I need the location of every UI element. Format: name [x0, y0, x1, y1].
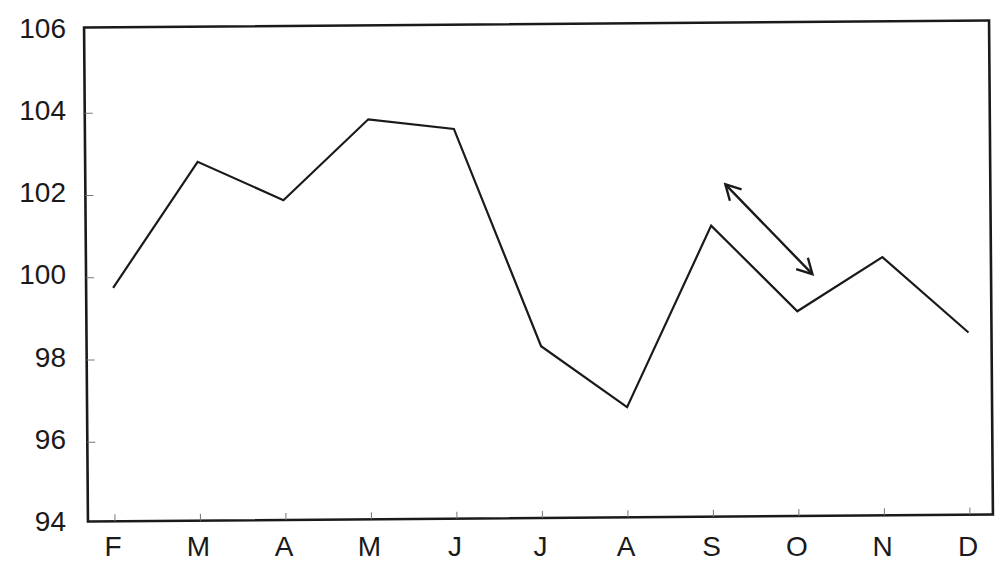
y-tick-label: 104 — [19, 95, 66, 126]
x-tick-label: A — [275, 531, 294, 562]
line-chart: 949698100102104106 FMAMJJASOND — [0, 0, 998, 569]
x-tick-label: J — [448, 531, 462, 562]
y-tick-label: 96 — [35, 424, 66, 455]
chart-canvas: 949698100102104106 FMAMJJASOND — [0, 0, 998, 569]
x-tick-label: J — [534, 531, 548, 562]
x-tick-label: M — [358, 531, 381, 562]
y-tick-label: 102 — [19, 177, 66, 208]
y-tick-label: 106 — [19, 13, 66, 44]
y-axis-labels: 949698100102104106 — [19, 13, 66, 538]
x-tick-label: A — [617, 531, 636, 562]
double-arrow-annotation — [725, 184, 812, 275]
x-tick-label: O — [786, 531, 808, 562]
x-tick-label: M — [187, 531, 210, 562]
y-tick-label: 98 — [35, 342, 66, 373]
plot-frame — [84, 20, 993, 521]
x-axis-labels: FMAMJJASOND — [104, 531, 978, 562]
y-tick-label: 94 — [35, 506, 66, 537]
x-tick-label: D — [958, 531, 978, 562]
x-tick-label: F — [104, 531, 121, 562]
x-tick-label: S — [702, 531, 721, 562]
x-tick-label: N — [872, 531, 892, 562]
data-line — [112, 115, 969, 412]
arrow-shaft — [725, 184, 812, 275]
y-tick-label: 100 — [19, 259, 66, 290]
